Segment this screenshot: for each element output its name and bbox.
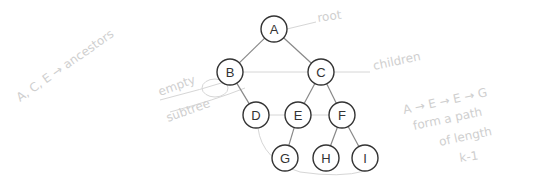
edge-a-c	[284, 38, 312, 63]
node-label: H	[321, 151, 330, 166]
node-c: C	[308, 59, 334, 85]
edge-a-b	[239, 38, 264, 63]
tree-nodes: ABCDEFGHI	[217, 16, 378, 171]
edge-e-g	[289, 127, 294, 145]
node-label: G	[280, 151, 290, 166]
edge-f-i	[348, 126, 359, 146]
node-b: B	[217, 59, 243, 85]
node-label: D	[251, 108, 260, 123]
node-label: C	[316, 65, 325, 80]
annotation-lines	[160, 22, 370, 175]
node-i: I	[352, 145, 378, 171]
subtree-annotation: subtree	[164, 96, 212, 125]
tree-diagram: ABCDEFGHI root children A, C, E → ancest…	[0, 0, 539, 179]
empty-annotation: empty	[156, 72, 197, 98]
root-annotation: root	[316, 8, 342, 25]
node-f: F	[329, 102, 355, 128]
path-annotation-line4: k-1	[458, 148, 479, 164]
node-h: H	[313, 145, 339, 171]
node-label: B	[226, 65, 235, 80]
node-a: A	[261, 16, 287, 42]
node-label: A	[270, 22, 279, 37]
node-label: F	[338, 108, 346, 123]
path-annotation-line3: of length	[438, 124, 493, 149]
tree-edges	[237, 38, 359, 147]
edge-c-e	[304, 83, 315, 103]
edge-b-d	[237, 83, 250, 104]
ancestors-annotation: A, C, E → ancestors	[14, 27, 117, 105]
node-d: D	[243, 102, 269, 128]
annotations: root children A, C, E → ancestors empty …	[14, 8, 493, 165]
edge-c-f	[327, 84, 337, 104]
children-annotation: children	[372, 49, 422, 73]
node-label: E	[294, 108, 303, 123]
node-label: I	[363, 151, 367, 166]
node-e: E	[285, 102, 311, 128]
root-pointer-line	[287, 22, 316, 29]
edge-f-h	[331, 127, 338, 146]
node-g: G	[272, 145, 298, 171]
